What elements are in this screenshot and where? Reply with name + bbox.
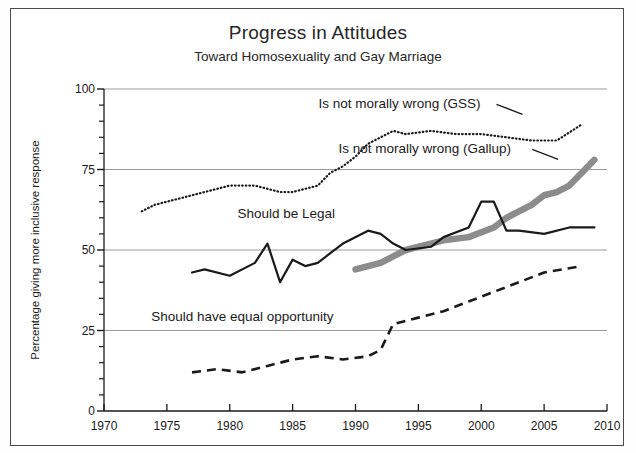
x-tick-label: 2010	[594, 419, 621, 433]
y-tick-label: 50	[82, 243, 96, 257]
plot-area: 0255075100 19701975198019851990199520002…	[0, 0, 636, 453]
x-tick-label: 1980	[216, 419, 243, 433]
x-tick-label: 1985	[279, 419, 306, 433]
x-tick-label: 2000	[468, 419, 495, 433]
series-label: Is not morally wrong (Gallup)	[338, 141, 511, 156]
x-tick-label: 2005	[531, 419, 558, 433]
series-label: Should have equal opportunity	[151, 309, 334, 324]
leader-line	[497, 104, 523, 114]
series-line	[142, 124, 582, 211]
x-tick-labels: 197019751980198519901995200020052010	[91, 419, 621, 433]
gridlines	[104, 89, 607, 331]
x-tick-label: 1975	[154, 419, 181, 433]
x-tick-label: 1995	[405, 419, 432, 433]
x-ticks	[104, 404, 607, 411]
y-tick-label: 100	[75, 82, 95, 96]
chart-image: Progress in Attitudes Toward Homosexuali…	[0, 0, 636, 453]
x-tick-label: 1990	[342, 419, 369, 433]
series-label: Is not morally wrong (GSS)	[318, 96, 480, 111]
y-tick-label: 75	[82, 163, 96, 177]
y-tick-label: 0	[88, 404, 95, 418]
y-axis-title: Percentage giving more inclusive respons…	[29, 140, 41, 359]
y-tick-label: 25	[82, 324, 96, 338]
series-lines	[142, 124, 595, 372]
x-tick-label: 1970	[91, 419, 118, 433]
series-label: Should be Legal	[238, 206, 336, 221]
leader-line	[532, 149, 558, 159]
y-tick-labels: 0255075100	[75, 82, 95, 418]
